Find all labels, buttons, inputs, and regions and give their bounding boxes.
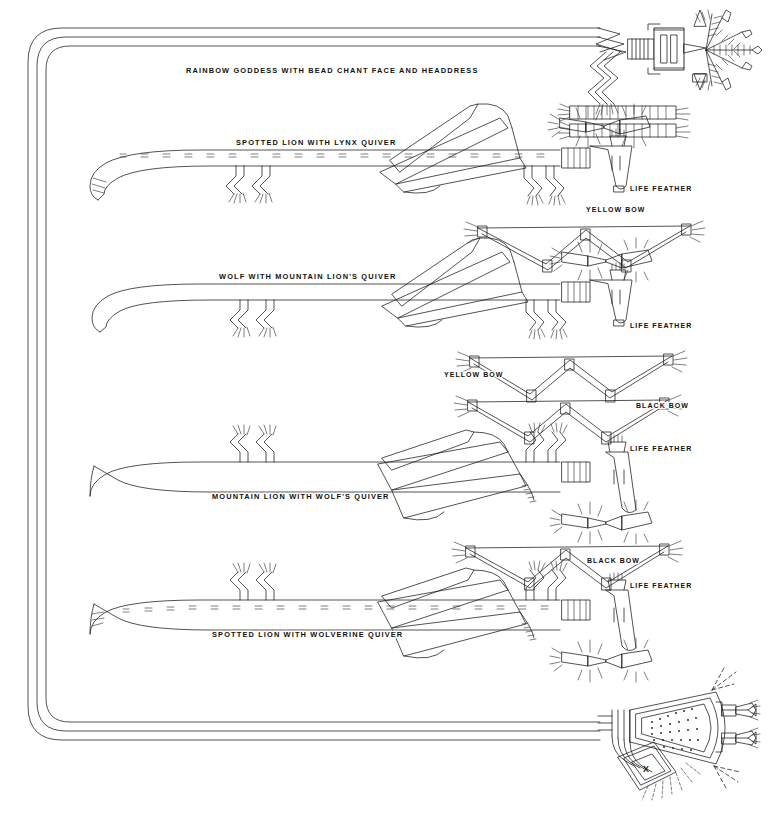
- pouch-rays: [642, 763, 700, 800]
- label-life-feather-4: LIFE FEATHER: [630, 582, 692, 589]
- figure-rainbow-goddess: RAINBOW GODDESS WITH BEAD CHANT FACE AND…: [186, 10, 762, 139]
- yellow-bow-1: YELLOW BOW: [464, 206, 705, 272]
- lynx-quiver: [548, 104, 650, 148]
- mountain-lion-quiver: [550, 238, 652, 282]
- label-yellow-bow-1: YELLOW BOW: [586, 206, 646, 213]
- lower-feather-rays: [714, 766, 740, 788]
- label-life-feather-2: LIFE FEATHER: [630, 322, 692, 329]
- label-figure-3: WOLF WITH MOUNTAIN LION'S QUIVER: [219, 272, 397, 281]
- label-figure-2: SPOTTED LION WITH LYNX QUIVER: [236, 138, 396, 147]
- label-figure-1: RAINBOW GODDESS WITH BEAD CHANT FACE AND…: [186, 66, 479, 75]
- label-figure-4: MOUNTAIN LION WITH WOLF'S QUIVER: [212, 492, 390, 501]
- label-black-bow-2: BLACK BOW: [587, 557, 640, 564]
- figure-wolf-mountain-lion: WOLF WITH MOUNTAIN LION'S QUIVER LIFE FE…: [92, 238, 692, 339]
- yellow-bow-2: YELLOW BOW: [444, 351, 687, 402]
- label-figure-5: SPOTTED LION WITH WOLVERINE QUIVER: [212, 630, 403, 639]
- headdress-feathers: [706, 10, 762, 90]
- label-yellow-bow-2: YELLOW BOW: [444, 371, 504, 378]
- sandpainting-plate: RAINBOW GODDESS WITH BEAD CHANT FACE AND…: [0, 0, 770, 813]
- label-black-bow-1: BLACK BOW: [636, 402, 689, 409]
- body-spots-2: [123, 606, 548, 612]
- upper-feather-rays: [712, 668, 736, 690]
- wolverine-quiver: [550, 638, 652, 682]
- label-life-feather-1: LIFE FEATHER: [630, 185, 692, 192]
- body-spots: [120, 154, 544, 157]
- rainbow-bundle-terminus: X: [598, 668, 760, 800]
- sandpainting-drawing: RAINBOW GODDESS WITH BEAD CHANT FACE AND…: [0, 0, 770, 813]
- wolf-quiver: [550, 500, 652, 544]
- label-life-feather-3: LIFE FEATHER: [630, 445, 692, 452]
- x-mark: X: [643, 764, 649, 774]
- black-bow-1: BLACK BOW: [454, 395, 689, 444]
